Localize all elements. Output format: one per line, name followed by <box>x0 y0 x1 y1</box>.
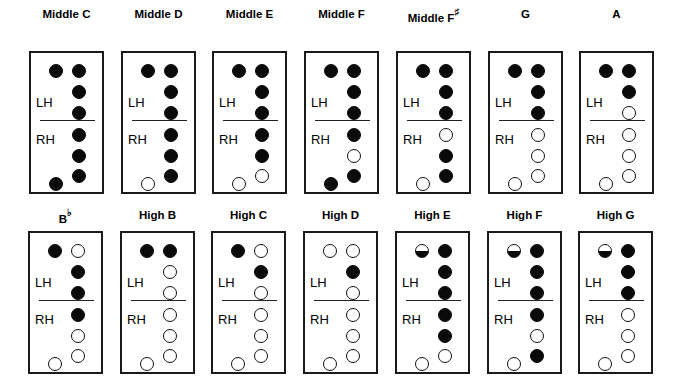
closed-hole-icon <box>49 64 63 78</box>
open-hole-icon <box>255 169 269 183</box>
closed-hole-icon <box>164 106 178 120</box>
closed-hole-icon <box>164 149 178 163</box>
open-hole-icon <box>48 357 62 371</box>
closed-hole-icon <box>439 85 453 99</box>
left-hand-label: LH <box>494 275 511 290</box>
right-hand-label: RH <box>585 312 604 327</box>
fingering-box: LHRH <box>304 51 379 194</box>
closed-hole-icon <box>71 308 85 322</box>
open-hole-icon <box>599 177 613 191</box>
hand-divider-line <box>315 120 370 121</box>
closed-hole-icon <box>255 149 269 163</box>
note-label: Middle F <box>408 12 455 24</box>
open-hole-icon <box>140 357 154 371</box>
note-name: G <box>478 8 573 20</box>
left-hand-label: LH <box>35 275 52 290</box>
left-hand-label: LH <box>403 95 420 110</box>
fingering-box: LHRH <box>488 51 563 194</box>
note-label: High G <box>597 209 635 221</box>
open-hole-icon <box>71 244 85 258</box>
closed-hole-icon <box>72 106 86 120</box>
closed-hole-icon <box>439 106 453 120</box>
closed-hole-icon <box>438 265 452 279</box>
closed-hole-icon <box>438 329 452 343</box>
open-hole-icon <box>71 329 85 343</box>
closed-hole-icon <box>439 169 453 183</box>
open-hole-icon <box>621 308 635 322</box>
closed-hole-icon <box>622 64 636 78</box>
note-name: Middle E <box>202 8 297 20</box>
closed-hole-icon <box>622 85 636 99</box>
closed-hole-icon <box>324 177 338 191</box>
closed-hole-icon <box>439 64 453 78</box>
note-name: A <box>569 8 664 20</box>
open-hole-icon <box>141 177 155 191</box>
right-hand-label: RH <box>128 132 147 147</box>
open-hole-icon <box>346 286 360 300</box>
fingering-box: LHRH <box>29 51 104 194</box>
closed-hole-icon <box>72 169 86 183</box>
closed-hole-icon <box>164 128 178 142</box>
closed-hole-icon <box>71 265 85 279</box>
closed-hole-icon <box>621 286 635 300</box>
left-hand-label: LH <box>128 95 145 110</box>
open-hole-icon <box>232 177 246 191</box>
closed-hole-icon <box>530 286 544 300</box>
note-name: High D <box>293 209 388 221</box>
closed-hole-icon <box>255 106 269 120</box>
note-label: Middle D <box>135 8 183 20</box>
closed-hole-icon <box>347 169 361 183</box>
fingering-box: LHRH <box>120 231 195 374</box>
left-hand-label: LH <box>402 275 419 290</box>
open-hole-icon <box>231 357 245 371</box>
closed-hole-icon <box>621 265 635 279</box>
left-hand-label: LH <box>36 95 53 110</box>
closed-hole-icon <box>232 64 246 78</box>
half-hole-icon <box>507 244 521 258</box>
open-hole-icon <box>622 128 636 142</box>
flat-symbol: ♭ <box>67 207 72 218</box>
fingering-box: LHRH <box>28 231 103 374</box>
right-hand-label: RH <box>586 132 605 147</box>
note-label: B <box>59 213 67 225</box>
open-hole-icon <box>254 349 268 363</box>
hand-divider-line <box>39 300 94 301</box>
closed-hole-icon <box>438 244 452 258</box>
note-label: High B <box>139 209 176 221</box>
open-hole-icon <box>621 349 635 363</box>
left-hand-label: LH <box>585 275 602 290</box>
closed-hole-icon <box>164 85 178 99</box>
fingering-box: LHRH <box>487 231 562 374</box>
fingering-box: LHRH <box>211 231 286 374</box>
left-hand-label: LH <box>311 95 328 110</box>
fingering-box: LHRH <box>212 51 287 194</box>
open-hole-icon <box>415 357 429 371</box>
fingering-box: LHRH <box>578 231 653 374</box>
sharp-symbol: ♯ <box>454 6 459 17</box>
right-hand-label: RH <box>35 312 54 327</box>
right-hand-label: RH <box>219 132 238 147</box>
open-hole-icon <box>508 177 522 191</box>
open-hole-icon <box>346 244 360 258</box>
open-hole-icon <box>531 149 545 163</box>
open-hole-icon <box>163 286 177 300</box>
right-hand-label: RH <box>36 132 55 147</box>
note-name: High B <box>110 209 205 221</box>
open-hole-icon <box>163 329 177 343</box>
open-hole-icon <box>507 357 521 371</box>
fingering-box: LHRH <box>579 51 654 194</box>
note-name: Middle F <box>294 8 389 20</box>
fingering-box: LHRH <box>395 231 470 374</box>
half-hole-icon <box>415 244 429 258</box>
right-hand-label: RH <box>494 312 513 327</box>
open-hole-icon <box>531 169 545 183</box>
hand-divider-line <box>499 120 554 121</box>
open-hole-icon <box>323 357 337 371</box>
closed-hole-icon <box>324 64 338 78</box>
closed-hole-icon <box>72 149 86 163</box>
note-label: A <box>612 8 620 20</box>
note-name: High E <box>385 209 480 221</box>
open-hole-icon <box>622 106 636 120</box>
open-hole-icon <box>163 349 177 363</box>
closed-hole-icon <box>254 265 268 279</box>
